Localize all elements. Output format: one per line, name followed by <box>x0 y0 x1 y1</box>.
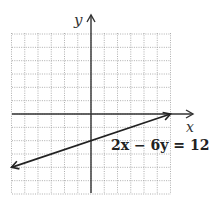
y-axis-label: y <box>73 11 83 29</box>
x-axis-label: x <box>186 119 194 135</box>
equation-label: 2x − 6y = 12 <box>111 137 209 153</box>
coordinate-plane: y x 2x − 6y = 12 <box>0 0 212 204</box>
